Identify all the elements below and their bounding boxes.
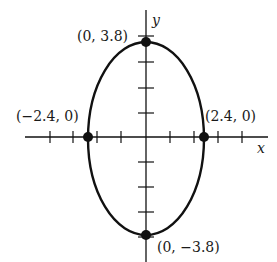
x-axis-label: x xyxy=(257,141,265,155)
y-axis-label: y xyxy=(152,13,160,27)
ellipse-diagram xyxy=(0,0,277,262)
point-left xyxy=(83,132,93,142)
point-right-label: (2.4, 0) xyxy=(205,109,256,123)
point-top xyxy=(141,37,151,47)
point-left-label: (−2.4, 0) xyxy=(16,109,79,123)
point-bottom xyxy=(141,230,151,240)
point-top-label: (0, 3.8) xyxy=(77,29,128,43)
point-bottom-label: (0, −3.8) xyxy=(157,240,220,254)
point-right xyxy=(199,132,209,142)
